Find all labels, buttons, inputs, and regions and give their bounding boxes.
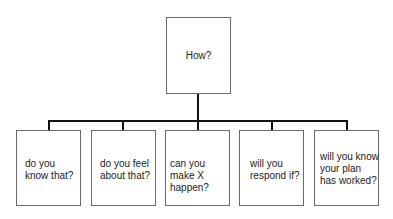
child-node-5: will you know your plan has worked? [314, 130, 379, 206]
child-connector-4 [271, 120, 273, 130]
root-node-label: How? [167, 50, 230, 62]
child-node-2: do you feel about that? [91, 130, 156, 206]
root-stem [197, 94, 199, 121]
child-node-4: will you respond if? [239, 130, 304, 206]
child-node-1: do you know that? [16, 130, 81, 206]
child-node-label: will you know your plan has worked? [320, 151, 380, 187]
child-node-label: do you feel about that? [100, 158, 156, 182]
child-node-label: can you make X happen? [170, 158, 230, 194]
child-node-label: will you respond if? [250, 158, 300, 182]
child-connector-3 [197, 120, 199, 130]
child-connector-5 [346, 120, 348, 130]
child-node-label: do you know that? [25, 158, 81, 182]
root-node: How? [166, 17, 231, 94]
child-connector-1 [48, 120, 50, 130]
child-node-3: can you make X happen? [165, 130, 230, 206]
child-connector-2 [122, 120, 124, 130]
